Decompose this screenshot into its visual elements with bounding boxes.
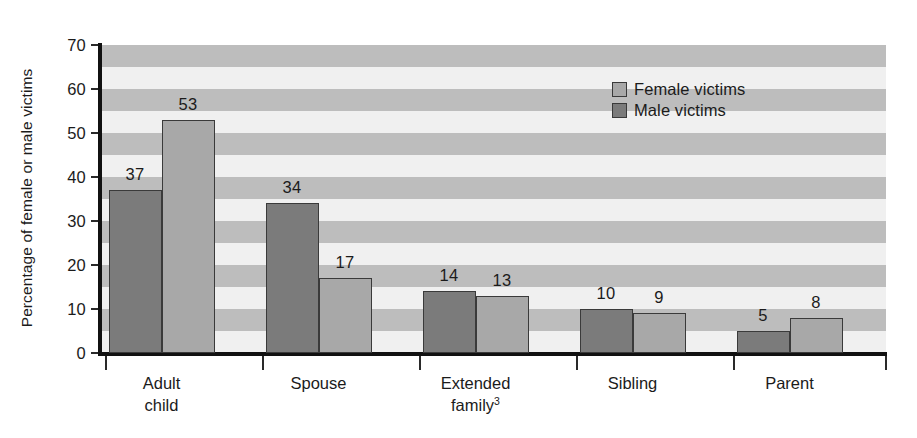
background-stripe <box>101 177 886 199</box>
bar-value-label: 17 <box>336 253 355 272</box>
x-axis-end-tick <box>885 356 887 370</box>
y-axis-title: Percentage of female or male victims <box>14 18 40 378</box>
bar-value-label: 8 <box>811 293 820 312</box>
background-stripe <box>101 89 886 111</box>
x-axis-group-label: Sibling <box>608 372 658 394</box>
y-axis-tick-label: 10 <box>44 300 86 319</box>
bar-female-victims-sibling <box>633 313 686 353</box>
legend-item-female: Female victims <box>612 79 745 100</box>
y-axis-tick-label: 20 <box>44 256 86 275</box>
bar-male-victims-adult-child <box>109 190 162 353</box>
bar-male-victims-extended-family <box>423 291 476 353</box>
bar-value-label: 10 <box>597 284 616 303</box>
bar-chart: Percentage of female or male victims 010… <box>0 0 917 438</box>
legend-label-male: Male victims <box>634 101 726 120</box>
y-axis-tick-label: 0 <box>44 344 86 363</box>
x-axis-group-label: Parent <box>765 372 814 394</box>
bar-value-label: 37 <box>126 165 145 184</box>
bar-value-label: 53 <box>179 95 198 114</box>
background-stripe <box>101 45 886 67</box>
bar-female-victims-adult-child <box>162 120 215 353</box>
bar-male-victims-sibling <box>580 309 633 353</box>
y-axis-tick-label: 30 <box>44 212 86 231</box>
x-axis-group-tick <box>262 356 264 370</box>
x-axis-group-tick <box>576 356 578 370</box>
x-axis-group-label: Adultchild <box>143 372 181 416</box>
bar-value-label: 9 <box>654 288 663 307</box>
legend-label-female: Female victims <box>634 80 745 99</box>
bar-male-victims-spouse <box>266 203 319 353</box>
x-axis-group-tick <box>419 356 421 370</box>
background-stripe <box>101 221 886 243</box>
y-axis-line <box>98 43 102 355</box>
x-axis-group-label: Spouse <box>291 372 347 394</box>
x-axis-group-tick <box>733 356 735 370</box>
background-stripe <box>101 133 886 155</box>
y-axis-tick-label: 40 <box>44 168 86 187</box>
legend-swatch-female-icon <box>612 82 627 97</box>
x-axis-group-tick <box>105 356 107 370</box>
y-axis-tick-label: 50 <box>44 124 86 143</box>
legend-item-male: Male victims <box>612 100 745 121</box>
bar-male-victims-parent <box>737 331 790 353</box>
legend-swatch-male-icon <box>612 103 627 118</box>
bar-female-victims-parent <box>790 318 843 353</box>
bar-value-label: 13 <box>493 271 512 290</box>
bar-value-label: 34 <box>283 178 302 197</box>
y-axis-tick-label: 70 <box>44 36 86 55</box>
bar-value-label: 5 <box>758 306 767 325</box>
y-axis-tick-labels: 010203040506070 <box>44 0 86 438</box>
y-axis-tick-label: 60 <box>44 80 86 99</box>
x-axis-group-label: Extendedfamily3 <box>441 372 511 416</box>
bar-female-victims-extended-family <box>476 296 529 353</box>
chart-legend: Female victims Male victims <box>612 79 745 121</box>
bar-value-label: 14 <box>440 266 459 285</box>
bar-female-victims-spouse <box>319 278 372 353</box>
